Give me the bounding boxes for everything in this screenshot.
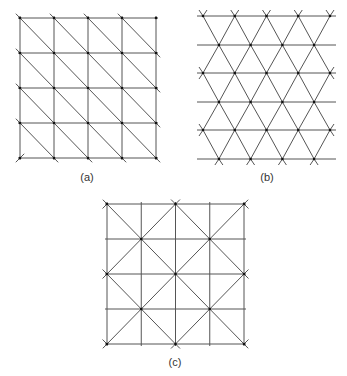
mesh-node xyxy=(155,87,158,90)
mesh-node xyxy=(243,203,246,206)
mesh-node xyxy=(281,44,284,47)
panel-a-square-diagonal-mesh xyxy=(16,14,160,163)
mesh-node xyxy=(313,101,316,104)
lattice-diagonal xyxy=(251,45,267,73)
mesh-node xyxy=(121,87,124,90)
mesh-node xyxy=(87,87,90,90)
mesh-node xyxy=(53,52,56,55)
lattice-diagonal xyxy=(267,130,283,159)
lattice-diagonal xyxy=(314,16,330,45)
caption-b: (b) xyxy=(260,172,273,183)
mesh-node xyxy=(243,343,246,346)
panel-c-union-jack-mesh xyxy=(103,200,249,349)
mesh-node xyxy=(87,122,90,125)
mesh-node xyxy=(313,158,316,161)
lattice-diagonal xyxy=(314,102,330,130)
lattice-diagonal xyxy=(203,102,219,130)
grid-diagonal xyxy=(16,49,126,163)
lattice-diagonal xyxy=(282,73,298,102)
lattice-diagonal xyxy=(203,73,219,102)
lattice-diagonal xyxy=(267,102,283,130)
mesh-node xyxy=(208,238,211,241)
mesh-node xyxy=(243,273,246,276)
mesh-node xyxy=(87,52,90,55)
mesh-node xyxy=(140,238,143,241)
mesh-node xyxy=(202,72,205,75)
lattice-diagonal xyxy=(251,73,267,102)
mesh-node xyxy=(265,72,268,75)
mesh-node xyxy=(218,101,221,104)
mesh-node xyxy=(87,157,90,160)
mesh-node xyxy=(155,122,158,125)
mesh-node xyxy=(281,101,284,104)
mesh-node xyxy=(87,17,90,20)
lattice-diagonal xyxy=(314,130,330,159)
mesh-node xyxy=(19,17,22,20)
lattice-diagonal xyxy=(314,45,330,73)
mesh-node xyxy=(106,203,109,206)
lattice-diagonal xyxy=(267,73,283,102)
lattice-diagonal xyxy=(235,45,251,73)
mesh-node xyxy=(218,44,221,47)
mesh-node xyxy=(19,52,22,55)
lattice-diagonal xyxy=(298,130,314,159)
lattice-diagonal xyxy=(282,16,298,45)
mesh-node xyxy=(121,17,124,20)
mesh-node xyxy=(297,15,300,18)
mesh-node xyxy=(297,129,300,132)
mesh-node xyxy=(249,158,252,161)
lattice-diagonal xyxy=(203,16,219,45)
mesh-node xyxy=(208,308,211,311)
lattice-diagonal xyxy=(251,16,267,45)
lattice-diagonal xyxy=(219,16,235,45)
mesh-node xyxy=(155,17,158,20)
lattice-diagonal xyxy=(235,102,251,130)
mesh-node xyxy=(249,101,252,104)
mesh-node xyxy=(155,157,158,160)
lattice-diagonal xyxy=(251,102,267,130)
mesh-node xyxy=(53,87,56,90)
mesh-node xyxy=(53,157,56,160)
mesh-node xyxy=(329,72,332,75)
mesh-node xyxy=(265,129,268,132)
grid-diagonal xyxy=(50,14,160,128)
lattice-diagonal xyxy=(298,16,314,45)
mesh-node xyxy=(155,52,158,55)
lattice-diagonal xyxy=(235,73,251,102)
mesh-node xyxy=(106,273,109,276)
lattice-diagonal xyxy=(219,73,235,102)
lattice-diagonal xyxy=(282,130,298,159)
lattice-diagonal xyxy=(298,102,314,130)
mesh-node xyxy=(19,87,22,90)
lattice-diagonal xyxy=(282,102,298,130)
mesh-figure xyxy=(0,0,347,376)
mesh-node xyxy=(233,72,236,75)
caption-c: (c) xyxy=(169,357,182,368)
lattice-diagonal xyxy=(219,102,235,130)
mesh-node xyxy=(265,15,268,18)
mesh-node xyxy=(218,158,221,161)
mesh-node xyxy=(19,157,22,160)
mesh-node xyxy=(174,203,177,206)
mesh-node xyxy=(313,44,316,47)
mesh-node xyxy=(329,15,332,18)
mesh-node xyxy=(202,15,205,18)
mesh-node xyxy=(19,122,22,125)
lattice-diagonal xyxy=(203,130,219,159)
grid-diagonal xyxy=(118,14,160,58)
lattice-diagonal xyxy=(235,16,251,45)
lattice-diagonal xyxy=(219,130,235,159)
lattice-diagonal xyxy=(251,130,267,159)
lattice-diagonal xyxy=(314,73,330,102)
lattice-diagonal xyxy=(203,45,219,73)
lattice-diagonal xyxy=(219,45,235,73)
mesh-node xyxy=(140,308,143,311)
lattice-diagonal xyxy=(298,73,314,102)
mesh-node xyxy=(53,122,56,125)
mesh-node xyxy=(121,122,124,125)
mesh-node xyxy=(174,343,177,346)
mesh-node xyxy=(121,157,124,160)
mesh-node xyxy=(281,158,284,161)
mesh-node xyxy=(297,72,300,75)
lattice-diagonal xyxy=(235,130,251,159)
